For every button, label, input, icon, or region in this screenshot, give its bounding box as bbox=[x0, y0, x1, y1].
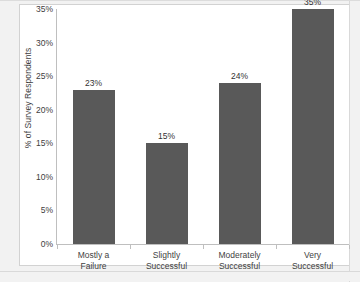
bar[interactable] bbox=[292, 9, 334, 244]
y-axis-tick-label: 20% bbox=[36, 105, 53, 115]
x-axis-tick-mark bbox=[130, 245, 131, 249]
figure-right-margin bbox=[349, 1, 360, 282]
bar-slot: 15% bbox=[130, 9, 203, 244]
bar-slot: 24% bbox=[203, 9, 276, 244]
x-axis-tick-mark bbox=[57, 245, 58, 249]
category-label-line: Moderately bbox=[203, 250, 276, 261]
bar-slot: 23% bbox=[57, 9, 130, 244]
y-axis-tick-labels: 0%5%10%15%20%25%30%35% bbox=[20, 4, 56, 266]
y-axis-tick-label: 30% bbox=[36, 38, 53, 48]
bar-value-label: 24% bbox=[231, 71, 248, 81]
category-label-line: Slightly bbox=[130, 250, 203, 261]
y-axis-tick-label: 0% bbox=[41, 239, 53, 249]
category-label-line: Successful bbox=[130, 261, 203, 272]
y-axis-tick-label: 15% bbox=[36, 138, 53, 148]
bars-container: 23%15%24%35% bbox=[57, 9, 349, 244]
bar[interactable] bbox=[146, 143, 188, 244]
y-axis-tick-label: 25% bbox=[36, 71, 53, 81]
bar[interactable] bbox=[219, 83, 261, 244]
bar-value-label: 23% bbox=[85, 78, 102, 88]
x-axis-tick-mark bbox=[349, 245, 350, 249]
y-axis-tick-label: 10% bbox=[36, 172, 53, 182]
x-axis-category-label: VerySuccessful bbox=[276, 250, 349, 271]
x-axis-tick-mark bbox=[203, 245, 204, 249]
bar-value-label: 15% bbox=[158, 131, 175, 141]
bar[interactable] bbox=[73, 90, 115, 244]
x-axis-category-label: Mostly aFailure bbox=[57, 250, 130, 271]
category-label-line: Very bbox=[276, 250, 349, 261]
figure-bottom-margin bbox=[0, 271, 360, 281]
y-axis-tick-label: 35% bbox=[36, 4, 53, 14]
x-axis-tick-mark bbox=[276, 245, 277, 249]
bar-slot: 35% bbox=[276, 9, 349, 244]
y-axis-tick-label: 5% bbox=[41, 205, 53, 215]
bar-value-label: 35% bbox=[304, 0, 321, 7]
x-axis-category-label: ModeratelySuccessful bbox=[203, 250, 276, 271]
category-label-line: Successful bbox=[203, 261, 276, 272]
category-label-line: Successful bbox=[276, 261, 349, 272]
category-label-line: Failure bbox=[57, 261, 130, 272]
category-label-line: Mostly a bbox=[57, 250, 130, 261]
x-axis-category-label: SlightlySuccessful bbox=[130, 250, 203, 271]
